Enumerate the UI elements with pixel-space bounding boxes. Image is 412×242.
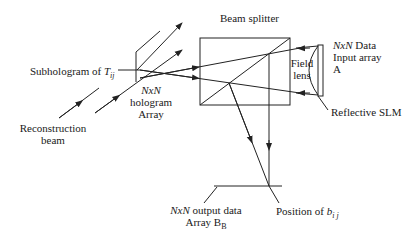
output-line2-sub: B xyxy=(221,222,226,231)
reconstruction-beam-label: Reconstruction beam xyxy=(18,122,88,146)
slm-pointer xyxy=(318,96,328,110)
reconstruction-line1: Reconstruction xyxy=(18,122,88,134)
input-array-label: NxN Data Input array A xyxy=(333,39,382,75)
diffracted-beam-upper xyxy=(137,23,182,70)
field-lens-label: Field lens xyxy=(290,57,314,81)
hologram-line1: NxN xyxy=(126,84,176,96)
beam-splitter-label: Beam splitter xyxy=(220,12,279,24)
output-array-pointer xyxy=(204,187,217,203)
output-ray-slanted-arrow xyxy=(229,83,251,140)
beam-splitter-diagonal xyxy=(200,38,290,105)
hologram-line3: Array xyxy=(126,108,176,120)
input-line3: A xyxy=(333,63,382,75)
output-line1-rest: output data xyxy=(190,204,242,216)
reflective-slm-label: Reflective SLM xyxy=(331,106,402,118)
subhologram-prefix: Subhologram of xyxy=(30,65,104,77)
position-pointer xyxy=(269,186,279,203)
input-line2: Input array xyxy=(333,51,382,63)
output-line2-prefix: Array B xyxy=(185,216,221,228)
input-line1-var: NxN xyxy=(333,39,353,51)
reconstruction-beam-long-arrow xyxy=(95,97,117,113)
subhologram-label: Subhologram of Tij xyxy=(30,65,115,82)
hologram-line2: hologram xyxy=(126,96,176,108)
output-array-label: NxN output data Array BB xyxy=(160,204,252,233)
position-label: Position of bi j xyxy=(276,205,339,222)
field-line2: lens xyxy=(290,69,314,81)
position-sub: i j xyxy=(332,211,338,220)
output-line1-var: NxN xyxy=(170,204,190,216)
input-line1-rest: Data xyxy=(353,39,377,51)
reconstruction-line2: beam xyxy=(18,134,88,146)
reflective-slm xyxy=(318,45,323,96)
position-prefix: Position of xyxy=(276,205,327,217)
subhologram-sub: ij xyxy=(110,71,114,80)
reconstruction-beam-short-arrow xyxy=(59,103,80,119)
hologram-array-label: NxN hologram Array xyxy=(126,84,176,120)
field-line1: Field xyxy=(290,57,314,69)
